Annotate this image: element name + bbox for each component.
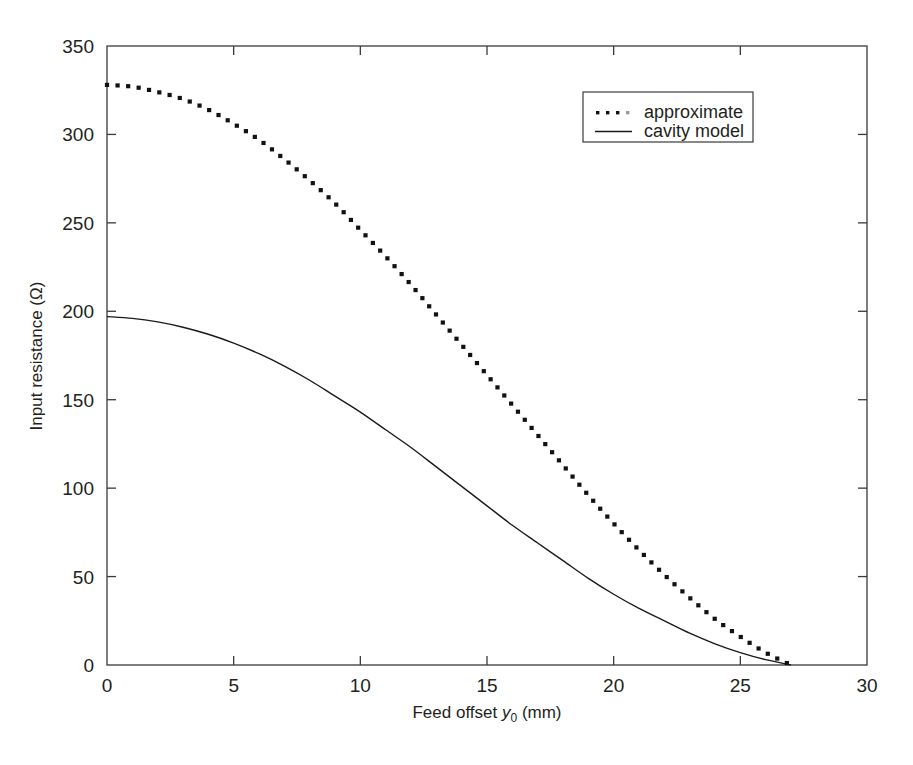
curve-approximate-marker xyxy=(407,280,411,284)
input-resistance-vs-feed-offset-chart: 051015202530 050100150200250300350 Feed … xyxy=(0,0,913,765)
curve-approximate-marker xyxy=(197,103,201,107)
curve-approximate-marker xyxy=(523,418,527,422)
x-tick-label: 30 xyxy=(856,675,877,696)
legend-label-approximate: approximate xyxy=(644,102,743,122)
curve-approximate-marker xyxy=(543,442,547,446)
curve-approximate-marker xyxy=(371,241,375,245)
curve-approximate-marker xyxy=(311,181,315,185)
curve-approximate-marker xyxy=(739,635,743,639)
curve-approximate-marker xyxy=(468,353,472,357)
curve-approximate-marker xyxy=(319,188,323,192)
curve-approximate-marker xyxy=(649,560,653,564)
curve-approximate-marker xyxy=(509,401,513,405)
curve-approximate-marker xyxy=(557,458,561,462)
y-axis-tick-labels: 050100150200250300350 xyxy=(62,36,94,676)
curve-approximate-marker xyxy=(326,195,330,199)
curve-approximate-marker xyxy=(550,450,554,454)
curve-approximate-marker xyxy=(721,623,725,627)
curve-approximate-marker xyxy=(356,226,360,230)
curve-approximate-marker xyxy=(642,553,646,557)
y-tick-label: 200 xyxy=(62,301,94,322)
x-tick-label: 5 xyxy=(228,675,239,696)
curve-approximate-marker xyxy=(482,369,486,373)
curve-approximate-marker xyxy=(413,288,417,292)
x-tick-label: 15 xyxy=(476,675,497,696)
curve-approximate-marker xyxy=(730,629,734,633)
curve-approximate-marker xyxy=(286,160,290,164)
curve-approximate-marker xyxy=(385,256,389,260)
curve-approximate-marker xyxy=(378,249,382,253)
curve-approximate-marker xyxy=(334,203,338,207)
y-tick-label: 150 xyxy=(62,390,94,411)
curve-approximate-marker xyxy=(657,568,661,572)
curve-approximate-marker xyxy=(427,304,431,308)
curve-approximate-marker xyxy=(672,582,676,586)
curve-approximate-marker xyxy=(680,589,684,593)
y-tick-label: 100 xyxy=(62,478,94,499)
curve-approximate-marker xyxy=(261,141,265,145)
curve-approximate-marker xyxy=(756,646,760,650)
curve-approximate-marker xyxy=(235,124,239,128)
x-axis-title: Feed offset y0 (mm) xyxy=(412,703,561,725)
curve-approximate-marker xyxy=(400,272,404,276)
curve-approximate-marker xyxy=(704,610,708,614)
curve-approximate-marker xyxy=(766,652,770,656)
curve-approximate-marker xyxy=(216,113,220,117)
y-tick-label: 250 xyxy=(62,213,94,234)
curve-approximate-marker xyxy=(785,661,789,665)
x-tick-label: 0 xyxy=(102,675,113,696)
curve-approximate-marker xyxy=(270,147,274,151)
y-tick-label: 0 xyxy=(83,655,94,676)
curve-approximate-marker xyxy=(713,617,717,621)
x-axis-title-unit: (mm) xyxy=(522,703,562,722)
curve-approximate-marker xyxy=(244,129,248,133)
curve-approximate-marker xyxy=(748,641,752,645)
curve-approximate-marker xyxy=(226,118,230,122)
curve-approximate-marker xyxy=(278,154,282,158)
curve-approximate-marker xyxy=(392,264,396,268)
curve-approximate-marker xyxy=(570,474,574,478)
curve-approximate-marker xyxy=(137,86,141,90)
curve-approximate-marker xyxy=(530,426,534,430)
curve-approximate-marker xyxy=(688,596,692,600)
y-tick-label: 300 xyxy=(62,124,94,145)
curve-approximate-marker xyxy=(253,135,257,139)
curve-approximate-marker xyxy=(665,575,669,579)
curve-approximate-marker xyxy=(147,88,151,92)
y-tick-label: 350 xyxy=(62,36,94,57)
curve-approximate-marker xyxy=(157,90,161,94)
curve-approximate-marker xyxy=(168,93,172,97)
curve-approximate-marker xyxy=(461,345,465,349)
curve-approximate-marker xyxy=(598,507,602,511)
y-tick-label: 50 xyxy=(73,567,94,588)
x-axis-title-main: Feed offset xyxy=(412,703,497,722)
curve-approximate-marker xyxy=(605,514,609,518)
curve-approximate-marker xyxy=(188,99,192,103)
x-tick-label: 10 xyxy=(350,675,371,696)
curve-approximate-marker xyxy=(627,538,631,542)
curve-approximate-marker xyxy=(495,385,499,389)
curve-approximate-marker xyxy=(434,312,438,316)
curve-approximate-marker xyxy=(178,96,182,100)
curve-approximate-marker xyxy=(454,337,458,341)
legend: approximate cavity model xyxy=(583,92,753,142)
curve-approximate-marker xyxy=(448,329,452,333)
curve-approximate-marker xyxy=(536,434,540,438)
curve-approximate-marker xyxy=(295,167,299,171)
curve-approximate-marker xyxy=(303,174,307,178)
curve-approximate-marker xyxy=(441,320,445,324)
curve-approximate-marker xyxy=(620,530,624,534)
curve-approximate-marker xyxy=(420,296,424,300)
curve-approximate-marker xyxy=(342,210,346,214)
curve-approximate-marker xyxy=(115,83,119,87)
x-tick-label: 20 xyxy=(603,675,624,696)
curve-approximate-marker xyxy=(363,233,367,237)
svg-text:Feed offset y0 (mm): Feed offset y0 (mm) xyxy=(412,703,561,725)
curve-approximate-marker xyxy=(105,83,109,87)
curve-approximate-marker xyxy=(207,108,211,112)
curve-approximate-marker xyxy=(564,466,568,470)
curve-approximate-marker xyxy=(489,377,493,381)
x-axis-tick-labels: 051015202530 xyxy=(102,675,878,696)
curve-approximate-marker xyxy=(612,522,616,526)
y-axis-title: Input resistance (Ω) xyxy=(27,282,46,431)
